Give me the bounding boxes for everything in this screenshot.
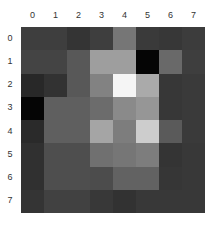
heatmap-cell <box>159 97 182 120</box>
heatmap-cell <box>113 190 136 213</box>
x-tick-label: 6 <box>159 10 182 20</box>
heatmap-cell <box>90 50 113 73</box>
heatmap-cell <box>90 27 113 50</box>
heatmap-cell <box>113 120 136 143</box>
heatmap-cell <box>159 167 182 190</box>
heatmap-cell <box>136 143 159 166</box>
heatmap-cell <box>182 27 205 50</box>
heatmap-cell <box>182 50 205 73</box>
y-tick-label: 4 <box>4 126 16 136</box>
heatmap-cell <box>113 143 136 166</box>
heatmap-cell <box>67 50 90 73</box>
heatmap-cell <box>21 27 44 50</box>
heatmap-cell <box>44 190 67 213</box>
heatmap-cell <box>159 50 182 73</box>
heatmap-cell <box>113 97 136 120</box>
heatmap-cell <box>136 74 159 97</box>
heatmap-cell <box>182 167 205 190</box>
heatmap-grid <box>21 27 205 213</box>
y-tick-label: 7 <box>4 195 16 205</box>
heatmap-cell <box>113 50 136 73</box>
heatmap-cell <box>136 97 159 120</box>
heatmap-cell <box>44 120 67 143</box>
y-tick-label: 1 <box>4 56 16 66</box>
heatmap-cell <box>44 97 67 120</box>
heatmap-cell <box>159 190 182 213</box>
heatmap-cell <box>67 74 90 97</box>
heatmap-cell <box>90 143 113 166</box>
x-tick-label: 1 <box>44 10 67 20</box>
heatmap-cell <box>113 27 136 50</box>
heatmap-cell <box>159 27 182 50</box>
y-tick-label: 6 <box>4 172 16 182</box>
heatmap-cell <box>67 190 90 213</box>
heatmap-cell <box>136 27 159 50</box>
heatmap-cell <box>90 167 113 190</box>
heatmap-cell <box>159 120 182 143</box>
heatmap-cell <box>21 97 44 120</box>
heatmap-cell <box>44 167 67 190</box>
y-tick-label: 5 <box>4 149 16 159</box>
heatmap-cell <box>90 74 113 97</box>
heatmap-cell <box>159 143 182 166</box>
heatmap-cell <box>113 167 136 190</box>
heatmap-cell <box>182 97 205 120</box>
heatmap-cell <box>136 120 159 143</box>
x-tick-label: 2 <box>67 10 90 20</box>
heatmap-cell <box>182 120 205 143</box>
y-tick-label: 2 <box>4 79 16 89</box>
heatmap-cell <box>136 167 159 190</box>
heatmap-cell <box>182 143 205 166</box>
heatmap-cell <box>67 27 90 50</box>
heatmap-cell <box>67 120 90 143</box>
heatmap-cell <box>182 190 205 213</box>
heatmap-cell <box>21 143 44 166</box>
heatmap-cell <box>21 167 44 190</box>
heatmap-cell <box>90 97 113 120</box>
x-tick-label: 0 <box>21 10 44 20</box>
heatmap-cell <box>67 143 90 166</box>
heatmap-cell <box>21 190 44 213</box>
y-tick-label: 0 <box>4 33 16 43</box>
heatmap-cell <box>21 120 44 143</box>
heatmap-cell <box>182 74 205 97</box>
heatmap-cell <box>136 190 159 213</box>
heatmap-cell <box>44 27 67 50</box>
x-tick-label: 5 <box>136 10 159 20</box>
heatmap-cell <box>159 74 182 97</box>
x-tick-label: 7 <box>182 10 205 20</box>
heatmap-cell <box>21 74 44 97</box>
x-tick-label: 4 <box>113 10 136 20</box>
heatmap-cell <box>44 50 67 73</box>
heatmap-cell <box>136 50 159 73</box>
heatmap-cell <box>44 74 67 97</box>
heatmap-cell <box>21 50 44 73</box>
heatmap-chart: 01234567 01234567 <box>0 0 218 225</box>
heatmap-cell <box>90 190 113 213</box>
heatmap-cell <box>67 97 90 120</box>
heatmap-cell <box>44 143 67 166</box>
heatmap-cell <box>113 74 136 97</box>
x-tick-label: 3 <box>90 10 113 20</box>
y-tick-label: 3 <box>4 102 16 112</box>
heatmap-cell <box>90 120 113 143</box>
heatmap-cell <box>67 167 90 190</box>
